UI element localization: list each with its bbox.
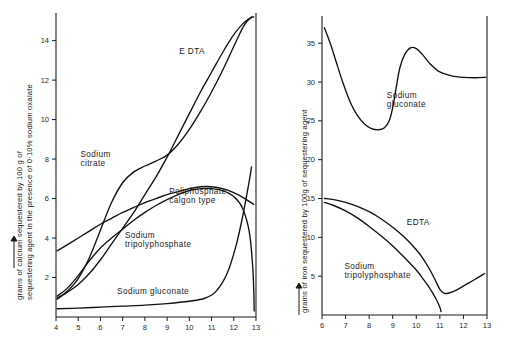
left-panel-x-tick-label: 7	[121, 323, 125, 332]
curve-label-sodium-gluconate: Sodium	[387, 91, 417, 100]
right-panel-x-tick-label: 11	[436, 321, 444, 330]
curve-label-sodium-gluconate: Sodium gluconate	[117, 287, 189, 296]
left-panel-x-tick-label: 5	[76, 323, 80, 332]
left-panel-y-tick-label: 8	[45, 155, 49, 164]
right-panel-y-tick-label: 30	[307, 78, 315, 87]
figure-root: 246810121445678910111213E DTASodiumcitra…	[0, 0, 505, 345]
curve-label-sodium-tripolyphosphate: Sodium	[125, 231, 155, 240]
left-panel-x-tick-label: 4	[54, 323, 58, 332]
curve-label-sodium-gluconate-line2: gluconate	[387, 100, 426, 109]
curve-label-sodium-citrate: Sodium	[80, 150, 110, 159]
curve-label-sodium-tripolyphosphate-line2: tripolyphosphate	[344, 271, 411, 280]
curve-label-edta: E DTA	[179, 47, 205, 56]
left-panel-x-tick-label: 10	[185, 323, 193, 332]
left-panel-x-tick-label: 12	[230, 323, 238, 332]
right-panel-x-tick-label: 13	[483, 321, 491, 330]
left-panel-y-tick-label: 2	[45, 273, 49, 282]
right-panel: 5101520253035678910111213Sodiumgluconate…	[307, 16, 492, 330]
left-panel-y-tick-label: 14	[41, 36, 49, 45]
right-panel-x-tick-label: 10	[412, 321, 420, 330]
two-panel-line-chart: 246810121445678910111213E DTASodiumcitra…	[0, 0, 505, 345]
right-panel-y-axis-title: grams of iron sequestered by 100g of seq…	[300, 109, 309, 313]
left-panel-x-tick-label: 11	[208, 323, 216, 332]
left-panel-y-tick-label: 12	[41, 76, 49, 85]
left-panel-x-tick-label: 9	[165, 323, 169, 332]
right-panel-y-tick-label: 35	[307, 39, 315, 48]
left-panel: 246810121445678910111213E DTASodiumcitra…	[41, 13, 261, 332]
right-panel-x-tick-label: 6	[320, 321, 324, 330]
left-panel-y-tick-label: 6	[45, 194, 49, 203]
left-panel-x-tick-label: 8	[143, 323, 147, 332]
left-panel-y-tick-label: 4	[45, 234, 49, 243]
left-panel-y-axis-title-line2: sequestering agent in the presence of 0·…	[25, 84, 34, 300]
right-panel-y-tick-label: 5	[311, 272, 315, 281]
curve-label-sodium-citrate-line2: citrate	[80, 159, 105, 168]
right-panel-x-tick-label: 12	[459, 321, 467, 330]
left-panel-y-axis-title-line1: grams of calcium sequestered by 100 g of	[15, 150, 24, 300]
left-panel-x-tick-label: 6	[98, 323, 102, 332]
right-panel-x-tick-label: 7	[343, 321, 347, 330]
curve-label-sodium-tripolyphosphate: Sodium	[344, 262, 374, 271]
curve-sodium-gluconate	[324, 28, 485, 130]
left-panel-y-tick-label: 10	[41, 115, 49, 124]
curve-label-poliphosphate-calgon-type-line2: calgon type	[169, 196, 215, 205]
curve-label-sodium-tripolyphosphate-line2: tripolyphosphate	[125, 240, 192, 249]
curve-label-edta: EDTA	[407, 218, 430, 227]
right-panel-x-tick-label: 9	[391, 321, 395, 330]
left-panel-x-tick-label: 13	[252, 323, 260, 332]
right-panel-x-tick-label: 8	[367, 321, 371, 330]
